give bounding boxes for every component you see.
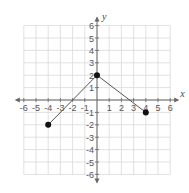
x-tick-label: 5 [155,103,160,113]
axes [15,17,179,184]
y-tick-label: -4 [86,145,94,155]
x-axis-label: x [179,88,185,99]
x-tick-label: 2 [119,103,124,113]
y-axis-up-arrow-icon [95,17,100,22]
data-point [45,122,51,128]
y-tick-label: 3 [89,58,94,68]
data-point [94,72,100,78]
x-tick-label: -5 [32,103,40,113]
x-axis-left-arrow-icon [15,98,20,103]
x-tick-label: -2 [69,103,77,113]
y-axis-label: y [101,11,107,22]
y-tick-label: 1 [89,83,94,93]
y-tick-label: 4 [89,46,94,56]
coordinate-plane: -6-5-4-3-2-1123456-6-5-4-3-2-1123456 x y [0,0,189,193]
y-tick-label: -6 [86,170,94,180]
y-tick-label: -2 [86,120,94,130]
x-tick-label: -4 [44,103,52,113]
x-axis-right-arrow-icon [174,98,179,103]
data-point [143,109,149,115]
x-tick-label: -3 [56,103,64,113]
y-axis-down-arrow-icon [95,178,100,183]
x-tick-label: 1 [107,103,112,113]
y-tick-label: 6 [89,21,94,31]
y-tick-label: 5 [89,34,94,44]
x-tick-label: 6 [168,103,173,113]
x-tick-label: -6 [20,103,28,113]
y-tick-label: -5 [86,158,94,168]
y-tick-label: -3 [86,133,94,143]
y-tick-label: -1 [86,108,94,118]
